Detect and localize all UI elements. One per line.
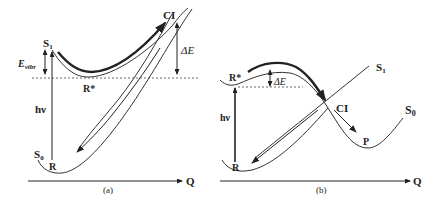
label-p-b: P bbox=[363, 136, 369, 147]
label-q-a: Q bbox=[186, 175, 195, 187]
panel-a: S1 Evibr R* CI ΔE hν S0 R Q (a) bbox=[17, 8, 200, 195]
caption-a: (a) bbox=[103, 185, 113, 195]
label-r-star-b: R* bbox=[229, 72, 241, 83]
label-s1-b: S1 bbox=[376, 61, 386, 75]
label-e-vibr-a: Evibr bbox=[17, 58, 36, 71]
label-delta-e-a: ΔE bbox=[180, 44, 194, 56]
label-q-b: Q bbox=[413, 175, 422, 187]
potential-energy-diagram: S1 Evibr R* CI ΔE hν S0 R Q (a) bbox=[0, 0, 439, 204]
relaxation-arrow-b bbox=[248, 63, 325, 100]
label-r-star-a: R* bbox=[83, 83, 95, 94]
caption-b: (b) bbox=[316, 185, 327, 195]
s0-curve-b bbox=[220, 72, 403, 148]
label-s0-b: S0 bbox=[405, 103, 416, 118]
label-delta-e-b: ΔE bbox=[273, 76, 286, 87]
label-hv-b: hν bbox=[220, 112, 231, 123]
label-s0-a: S0 bbox=[34, 148, 44, 162]
s0-curve-a bbox=[38, 9, 192, 173]
ci-to-r-arrow-b bbox=[252, 110, 318, 163]
label-s1-a: S1 bbox=[43, 37, 53, 51]
label-hv-a: hν bbox=[35, 103, 46, 115]
label-r-b: R bbox=[232, 162, 240, 173]
ci-decay-line-a bbox=[78, 14, 172, 150]
panel-b: R* ΔE S1 CI S0 P hν R Q (b) bbox=[220, 61, 422, 195]
label-ci-a: CI bbox=[163, 9, 175, 21]
label-ci-b: CI bbox=[336, 102, 348, 114]
label-r-a: R bbox=[49, 161, 57, 172]
